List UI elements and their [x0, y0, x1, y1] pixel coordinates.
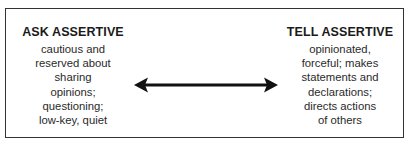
description-line: declarations;	[283, 85, 397, 99]
description-line: forceful; makes	[283, 56, 397, 70]
description-line: of others	[283, 113, 397, 127]
description-line: directs actions	[283, 99, 397, 113]
description-line: opinions;	[18, 85, 128, 99]
tell-assertive-panel: TELL ASSERTIVE opinionated, forceful; ma…	[283, 25, 397, 127]
tell-assertive-description: opinionated, forceful; makes statements …	[283, 42, 397, 127]
description-line: opinionated,	[283, 42, 397, 56]
description-line: statements and	[283, 70, 397, 84]
tell-assertive-title: TELL ASSERTIVE	[283, 25, 397, 40]
ask-assertive-title: ASK ASSERTIVE	[18, 25, 128, 40]
ask-assertive-description: cautious and reserved about sharing opin…	[18, 42, 128, 127]
description-line: reserved about	[18, 56, 128, 70]
description-line: questioning;	[18, 99, 128, 113]
double-headed-arrow-icon	[134, 76, 278, 94]
description-line: low-key, quiet	[18, 113, 128, 127]
description-line: cautious and	[18, 42, 128, 56]
ask-assertive-panel: ASK ASSERTIVE cautious and reserved abou…	[18, 25, 128, 127]
description-line: sharing	[18, 70, 128, 84]
